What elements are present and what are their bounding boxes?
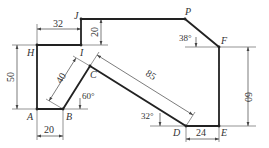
point-label-e: E: [220, 127, 227, 138]
angle-value-b: 60°: [82, 91, 95, 101]
point-label-f: F: [220, 35, 228, 46]
dim-value-ha: 50: [5, 72, 16, 82]
point-label-b: B: [66, 111, 72, 122]
dim-value-ab: 20: [44, 124, 54, 135]
outline: [37, 19, 219, 126]
angle-value-d: 32°: [141, 111, 154, 121]
dim-value-de: 24: [196, 127, 206, 138]
point-label-i: I: [79, 47, 84, 58]
dim-value-bc: 40: [53, 71, 68, 85]
dim-value-hi: 32: [53, 18, 63, 29]
point-label-h: H: [26, 47, 35, 58]
point-label-p: P: [184, 6, 191, 17]
dim-value-ji: 20: [89, 27, 100, 37]
dim-line-85: [97, 55, 193, 115]
technical-drawing: A B C D E F P J I H 32 20 50 20 40 85 24…: [0, 0, 269, 148]
dim-value-cd: 85: [144, 67, 158, 82]
point-label-c: C: [90, 69, 97, 80]
point-label-d: D: [172, 127, 181, 138]
point-label-j: J: [74, 10, 79, 21]
angle-value-p: 38°: [179, 33, 192, 43]
dimension-lines: [17, 19, 248, 139]
point-label-a: A: [26, 111, 34, 122]
dim-value-fe: 60: [243, 92, 254, 102]
